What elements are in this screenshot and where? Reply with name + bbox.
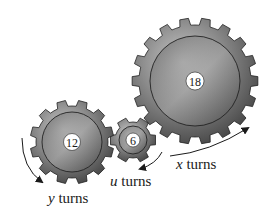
x-turns-text: turns (183, 156, 217, 172)
x-turns-label: x turns (176, 156, 216, 173)
u-turns-label: u turns (110, 173, 151, 190)
gear-teeth-count: 6 (130, 134, 136, 148)
u-variable: u (110, 173, 118, 189)
y-variable: y (48, 190, 55, 206)
u-turns-text: turns (118, 173, 152, 189)
gear-12: 12 (31, 101, 114, 184)
gear-6: 6 (111, 118, 156, 162)
gear-diagram: 18612 x turns u turns y turns (0, 0, 276, 219)
gear-teeth-count: 12 (66, 136, 78, 150)
gear-teeth-count: 18 (189, 75, 201, 89)
y-turns-text: turns (55, 190, 89, 206)
gear-18: 18 (132, 18, 258, 143)
y-turns-label: y turns (48, 190, 88, 207)
x-variable: x (176, 156, 183, 172)
